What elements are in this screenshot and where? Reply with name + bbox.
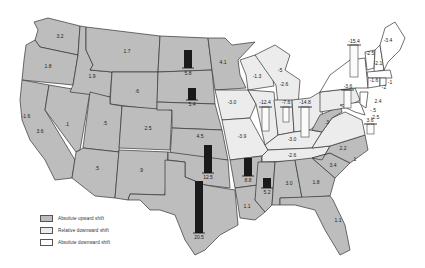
swatch-absolute-upward <box>40 215 53 222</box>
svg-text:-3.0: -3.0 <box>288 136 297 142</box>
state-me <box>380 22 405 70</box>
svg-text:1.7: 1.7 <box>124 48 131 54</box>
svg-text:1.1: 1.1 <box>335 217 342 223</box>
svg-text:3.6: 3.6 <box>37 128 44 134</box>
state-ia <box>215 90 256 120</box>
svg-text:5.4: 5.4 <box>189 101 196 107</box>
svg-text:1: 1 <box>354 156 357 162</box>
svg-text:-2.6: -2.6 <box>288 152 297 158</box>
legend-item-absolute-downward: Absolute downward shift <box>40 237 110 247</box>
swatch-relative-downward <box>40 227 53 234</box>
svg-text:.9: .9 <box>139 167 143 173</box>
svg-text:-1: -1 <box>388 79 393 85</box>
svg-text:1.8: 1.8 <box>45 63 52 69</box>
legend: Absolute upward shift Relative downward … <box>40 213 110 249</box>
svg-text:-3.4: -3.4 <box>384 37 393 43</box>
state-nm <box>115 150 168 200</box>
svg-text:2.2: 2.2 <box>340 145 347 151</box>
legend-label: Relative downward shift <box>58 228 109 233</box>
state-az <box>72 148 119 198</box>
svg-text:.5: .5 <box>95 165 99 171</box>
legend-label: Absolute downward shift <box>58 240 110 245</box>
svg-text:-15.4: -15.4 <box>348 38 360 44</box>
svg-text:-3.9: -3.9 <box>238 133 247 139</box>
svg-text:1.8: 1.8 <box>313 179 320 185</box>
svg-text:-3.0: -3.0 <box>228 99 237 105</box>
svg-text:-2.1: -2.1 <box>374 60 383 66</box>
svg-text:2.4: 2.4 <box>375 98 382 104</box>
svg-text:-3.6: -3.6 <box>344 83 353 89</box>
svg-text:3.6: 3.6 <box>367 117 374 123</box>
svg-text:-1.6: -1.6 <box>370 77 379 83</box>
svg-text:1.9: 1.9 <box>89 73 96 79</box>
svg-text:.6: .6 <box>135 88 139 94</box>
svg-text:1.1: 1.1 <box>244 203 251 209</box>
svg-text:5.2: 5.2 <box>264 189 271 195</box>
svg-text:.1: .1 <box>65 121 69 127</box>
svg-text:-12.4: -12.4 <box>259 99 271 105</box>
svg-text:-5: -5 <box>278 67 283 73</box>
svg-text:.5: .5 <box>103 120 107 126</box>
svg-text:3.2: 3.2 <box>57 33 64 39</box>
svg-text:12.5: 12.5 <box>203 174 213 180</box>
svg-text:3.4: 3.4 <box>330 162 337 168</box>
svg-text:8.8: 8.8 <box>245 177 252 183</box>
svg-text:2.5: 2.5 <box>145 125 152 131</box>
state-fl <box>280 196 350 255</box>
svg-text:-2.6: -2.6 <box>280 81 289 87</box>
svg-text:-2: -2 <box>382 84 387 90</box>
swatch-absolute-downward <box>40 239 53 246</box>
legend-item-absolute-upward: Absolute upward shift <box>40 213 110 223</box>
svg-text:20.5: 20.5 <box>194 234 204 240</box>
svg-text:-.5: -.5 <box>370 107 376 113</box>
legend-label: Absolute upward shift <box>58 216 104 221</box>
svg-text:4.1: 4.1 <box>220 59 227 65</box>
svg-text:.3: .3 <box>325 119 329 125</box>
svg-text:5.8: 5.8 <box>185 70 192 76</box>
svg-text:-1.3: -1.3 <box>253 73 262 79</box>
svg-text:3.0: 3.0 <box>286 180 293 186</box>
legend-item-relative-downward: Relative downward shift <box>40 225 110 235</box>
svg-text:-2.5: -2.5 <box>366 50 375 56</box>
svg-text:4.5: 4.5 <box>197 133 204 139</box>
svg-text:-1.6: -1.6 <box>22 113 31 119</box>
svg-text:-14.8: -14.8 <box>299 99 311 105</box>
svg-text:-7.6: -7.6 <box>282 99 291 105</box>
